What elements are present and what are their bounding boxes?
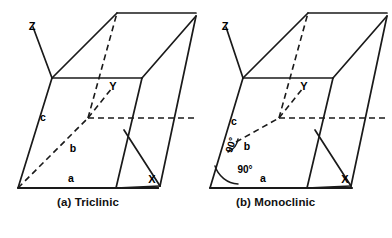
monoclinic-label-y: Y	[300, 80, 308, 92]
monoclinic-z-axis	[226, 27, 243, 78]
monoclinic-angle-label-lower: 90°	[237, 164, 252, 175]
monoclinic-far-right-edge	[351, 16, 387, 186]
caption-triclinic: (a) Triclinic	[57, 196, 119, 208]
monoclinic-front-right-edge	[307, 78, 333, 188]
monoclinic-label-z: Z	[222, 20, 229, 32]
monoclinic-label-b: b	[244, 140, 250, 152]
crystal-systems-figure: Z Y X c b a	[0, 0, 392, 238]
monoclinic-edge-b-dashed	[236, 118, 279, 142]
monoclinic-label-c: c	[231, 115, 237, 127]
caption-monoclinic: (b) Monoclinic	[236, 196, 315, 208]
monoclinic-hidden-vertical	[279, 13, 308, 118]
monoclinic-angle-arc-lower	[215, 166, 238, 184]
monoclinic-right-slant-upper	[333, 16, 387, 78]
monoclinic-label-x: X	[341, 173, 349, 185]
monoclinic-label-a: a	[260, 172, 266, 184]
